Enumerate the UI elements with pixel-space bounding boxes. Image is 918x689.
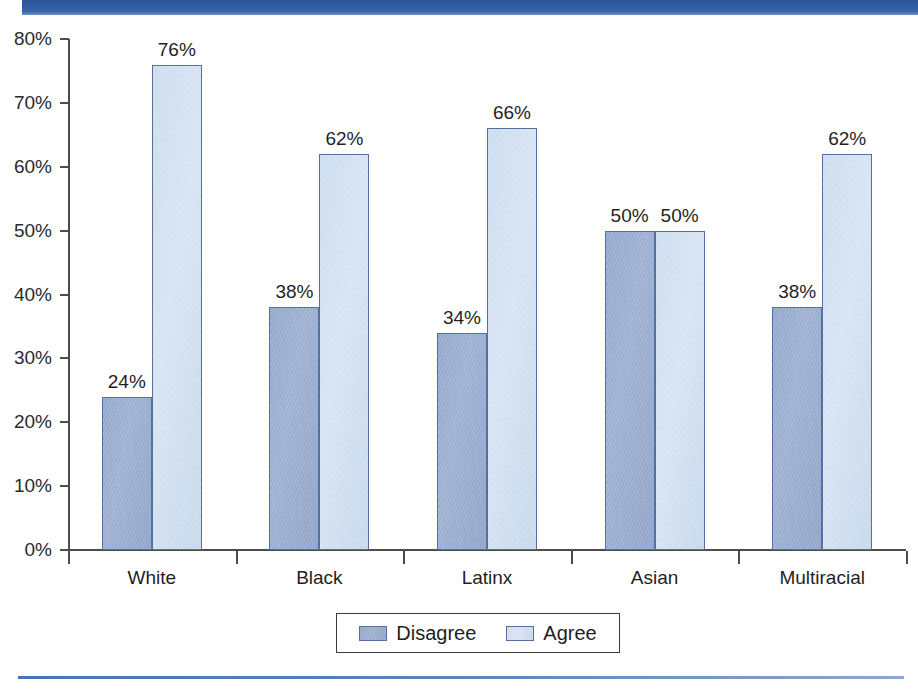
x-axis-tick: [738, 551, 740, 564]
bar-value-multiracial-agree: 62%: [807, 129, 887, 148]
bar-asian-disagree: [605, 231, 655, 550]
bar-value-asian-agree: 50%: [640, 206, 720, 225]
x-axis-tick: [236, 551, 238, 564]
y-axis-tick: [60, 294, 69, 296]
bar-white-disagree: [102, 397, 152, 550]
chart-page: 80%70%60%50%40%30%20%10%0% WhiteBlackLat…: [0, 0, 918, 689]
bar-multiracial-agree: [822, 154, 872, 550]
legend-swatch-disagree: [359, 626, 387, 641]
bar-multiracial-disagree: [772, 307, 822, 550]
bar-black-disagree: [269, 307, 319, 550]
category-label-white: White: [72, 568, 232, 587]
y-axis-label: 70%: [0, 93, 52, 112]
bar-white-agree: [152, 65, 202, 550]
y-axis-tick: [60, 38, 69, 40]
bar-asian-agree: [655, 231, 705, 550]
chart-legend: DisagreeAgree: [336, 613, 620, 653]
y-axis-tick: [60, 166, 69, 168]
footer-rule-decoration: [18, 676, 904, 679]
bar-latinx-agree: [487, 128, 537, 550]
y-axis-tick: [60, 485, 69, 487]
y-axis-label: 0%: [0, 540, 52, 559]
legend-entry-agree[interactable]: Agree: [506, 623, 596, 643]
bar-black-agree: [319, 154, 369, 550]
y-axis-tick: [60, 230, 69, 232]
x-axis-tick: [403, 551, 405, 564]
bar-value-white-agree: 76%: [137, 40, 217, 59]
category-label-black: Black: [239, 568, 399, 587]
y-axis-label: 20%: [0, 412, 52, 431]
y-axis-label: 10%: [0, 476, 52, 495]
legend-entry-disagree[interactable]: Disagree: [359, 623, 476, 643]
y-axis-label: 50%: [0, 221, 52, 240]
bar-value-black-agree: 62%: [304, 129, 384, 148]
y-axis-tick: [60, 421, 69, 423]
bar-value-latinx-agree: 66%: [472, 103, 552, 122]
bar-latinx-disagree: [437, 333, 487, 550]
x-axis-tick: [906, 551, 908, 564]
x-axis-tick: [68, 551, 70, 564]
y-axis-label: 30%: [0, 348, 52, 367]
y-axis-label: 60%: [0, 157, 52, 176]
y-axis-label: 80%: [0, 29, 52, 48]
header-bar-decoration: [22, 0, 918, 15]
category-label-multiracial: Multiracial: [742, 568, 902, 587]
category-label-asian: Asian: [575, 568, 735, 587]
y-axis-label: 40%: [0, 285, 52, 304]
legend-label-disagree: Disagree: [396, 623, 476, 643]
y-axis-tick: [60, 102, 69, 104]
legend-swatch-agree: [506, 626, 534, 641]
y-axis-tick: [60, 357, 69, 359]
legend-label-agree: Agree: [543, 623, 596, 643]
x-axis-tick: [571, 551, 573, 564]
category-label-latinx: Latinx: [407, 568, 567, 587]
